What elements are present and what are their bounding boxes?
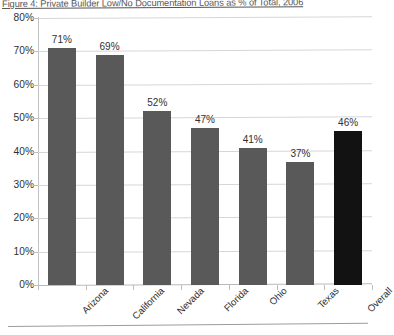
bar-group: 71% — [38, 18, 86, 285]
bar-value-label: 52% — [147, 97, 167, 108]
bar-value-label: 41% — [243, 134, 263, 145]
bar-chart: 80%70%60%50%40%30%20%10%0% 71%69%52%47%4… — [0, 13, 374, 283]
bar-group: 47% — [181, 18, 229, 285]
x-axis-category-labels: ArizonaCaliforniaNevadaFloridaOhioTexasO… — [0, 283, 374, 325]
figure-title: Figure 4: Private Builder Low/No Documen… — [2, 0, 374, 12]
y-axis-tick-label: 70% — [0, 46, 34, 56]
bar-arizona — [48, 48, 76, 285]
bar-california — [96, 55, 124, 285]
bar-group: 69% — [86, 18, 134, 285]
bar-group: 41% — [229, 18, 277, 285]
x-axis-label-arizona: Arizona — [79, 285, 110, 316]
x-axis-label-ohio: Ohio — [267, 285, 289, 307]
bar-ohio — [239, 148, 267, 285]
y-axis-tick-label: 50% — [0, 113, 34, 123]
y-axis-tick-label: 30% — [0, 180, 34, 190]
y-axis-tick-label: 80% — [0, 13, 34, 23]
x-axis-label-texas: Texas — [316, 285, 342, 311]
bar-group: 46% — [324, 18, 372, 285]
y-axis-tick-labels: 80%70%60%50%40%30%20%10%0% — [0, 18, 34, 285]
bar-group: 37% — [277, 18, 325, 285]
y-axis-tick-label: 40% — [0, 147, 34, 157]
x-axis-label-overall: Overall — [365, 285, 394, 314]
bar-value-label: 37% — [290, 148, 310, 159]
y-axis-tick-label: 10% — [0, 247, 34, 257]
plot-area: 71%69%52%47%41%37%46% — [38, 18, 372, 285]
x-axis-label-california: California — [129, 285, 165, 321]
x-axis-label-florida: Florida — [222, 285, 251, 314]
bar-value-label: 47% — [195, 114, 215, 125]
bar-florida — [191, 128, 219, 285]
bar-value-label: 46% — [338, 117, 358, 128]
bar-value-label: 71% — [52, 34, 72, 45]
bar-group: 52% — [133, 18, 181, 285]
y-axis-tick-label: 20% — [0, 213, 34, 223]
y-axis-tick-label: 60% — [0, 80, 34, 90]
bar-texas — [286, 162, 314, 285]
bar-value-label: 69% — [100, 41, 120, 52]
bar-overall — [334, 131, 362, 285]
bar-nevada — [143, 111, 171, 285]
x-axis-label-nevada: Nevada — [175, 285, 206, 316]
